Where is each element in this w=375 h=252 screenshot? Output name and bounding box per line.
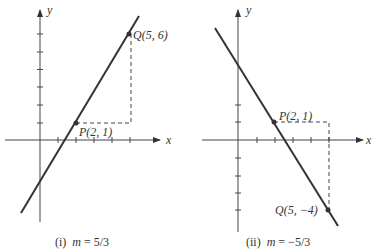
x-axis-label: x xyxy=(166,134,171,146)
dashed-rise-run xyxy=(76,34,131,123)
diagram-canvas xyxy=(0,0,375,252)
x-axis-label: x xyxy=(366,134,371,146)
point-p-label: P(2, 1) xyxy=(279,110,312,122)
y-axis-label: y xyxy=(246,4,251,16)
caption-prefix: (ii) xyxy=(246,235,261,249)
point-p-label: P(2, 1) xyxy=(79,126,112,138)
caption-value: = 5/3 xyxy=(84,235,109,249)
caption-i: (i) m = 5/3 xyxy=(55,236,109,248)
caption-var: m xyxy=(267,235,276,249)
graph-line xyxy=(215,28,338,226)
caption-ii: (ii) m = −5/3 xyxy=(246,236,310,248)
point-q xyxy=(326,208,331,213)
caption-value: = −5/3 xyxy=(278,235,310,249)
caption-prefix: (i) xyxy=(55,235,66,249)
point-q xyxy=(127,32,132,37)
graph-line xyxy=(21,16,139,213)
point-p xyxy=(272,120,277,125)
y-axis-label: y xyxy=(47,4,52,16)
point-q-label: Q(5, 6) xyxy=(133,29,168,41)
point-q-label: Q(5, −4) xyxy=(275,204,318,216)
point-p xyxy=(74,121,79,126)
caption-var: m xyxy=(72,235,81,249)
